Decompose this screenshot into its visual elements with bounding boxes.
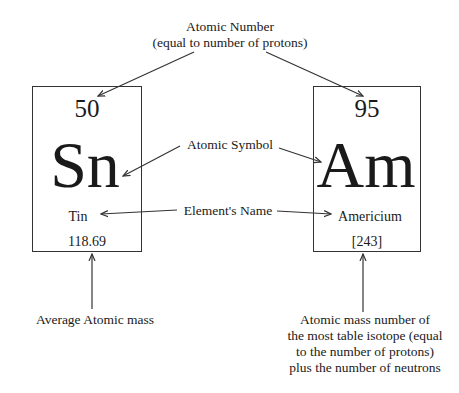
periodic-element-diagram: Atomic Number (equal to number of proton… — [0, 0, 459, 393]
mass-number-label-line1: Atomic mass number of — [270, 312, 459, 328]
element-card-tin: 50 Sn Tin 118.69 — [32, 86, 142, 252]
element-name-label: Element's Name — [168, 203, 288, 219]
atomic-number-value: 50 — [33, 95, 141, 123]
atomic-number-value: 95 — [314, 95, 420, 123]
mass-number-value: [243] — [314, 234, 420, 250]
element-name-value: Americium — [320, 209, 420, 225]
atomic-mass-value: 118.69 — [33, 234, 141, 250]
atomic-number-label-line2: (equal to number of protons) — [120, 35, 340, 51]
atomic-number-label: Atomic Number (equal to number of proton… — [120, 19, 340, 51]
mass-number-label-line2: the most table isotope (equal — [270, 328, 459, 344]
atomic-symbol-value: Am — [312, 130, 420, 200]
mass-number-label-line4: plus the number of neutrons — [270, 360, 459, 376]
element-card-americium: 95 Am Americium [243] — [313, 86, 421, 252]
average-atomic-mass-label: Average Atomic mass — [10, 312, 180, 328]
atomic-symbol-label: Atomic Symbol — [170, 137, 290, 153]
mass-number-label-line3: to the number of protons) — [270, 344, 459, 360]
atomic-number-label-line1: Atomic Number — [120, 19, 340, 35]
mass-number-label: Atomic mass number of the most table iso… — [270, 312, 459, 376]
element-name-value: Tin — [15, 209, 141, 225]
atomic-symbol-value: Sn — [29, 130, 141, 200]
